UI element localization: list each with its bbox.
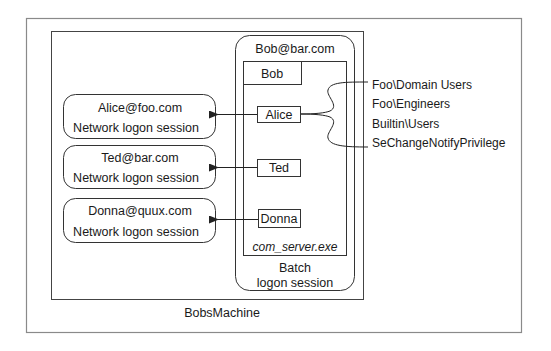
batch-session-caption-1: Batch <box>279 261 311 275</box>
network-session-donna-type: Network logon session <box>73 225 199 239</box>
thread-token-ted-label: Ted <box>269 161 289 175</box>
batch-session-caption-2: logon session <box>257 276 333 290</box>
token-group-1: Foo\Domain Users <box>372 78 472 92</box>
token-privilege: SeChangeNotifyPrivilege <box>372 136 506 150</box>
network-session-ted-account: Ted@bar.com <box>101 151 178 165</box>
network-session-alice-account: Alice@foo.com <box>98 101 182 115</box>
token-group-2: Foo\Engineers <box>372 97 450 111</box>
network-session-alice-type: Network logon session <box>73 121 199 135</box>
process-name: com_server.exe <box>253 240 338 254</box>
primary-token-label: Bob <box>261 67 283 81</box>
logon-session-diagram: BobsMachine Bob@bar.com Batch logon sess… <box>0 0 551 351</box>
machine-label: BobsMachine <box>184 306 260 320</box>
network-session-donna-account: Donna@quux.com <box>88 204 192 218</box>
batch-session-account: Bob@bar.com <box>255 42 334 56</box>
thread-token-donna-label: Donna <box>261 212 298 226</box>
token-group-3: Builtin\Users <box>372 117 439 131</box>
network-session-ted-type: Network logon session <box>73 171 199 185</box>
thread-token-alice-label: Alice <box>265 108 292 122</box>
